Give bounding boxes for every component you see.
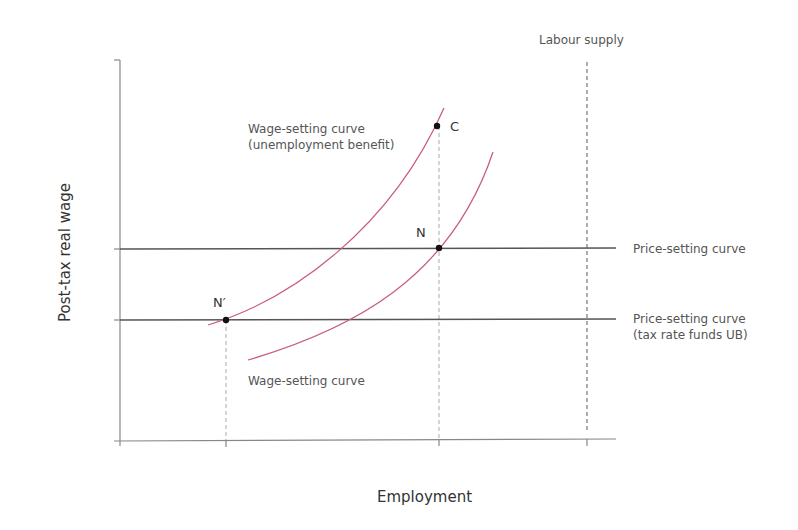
price-setting-curve bbox=[120, 248, 616, 249]
ws-ub-label-line1: Wage-setting curve bbox=[248, 122, 365, 136]
point-n-label: N bbox=[416, 225, 426, 240]
point-c-label: C bbox=[450, 119, 459, 134]
labour-supply-label: Labour supply bbox=[539, 33, 624, 47]
ws-ub-label-line2: (unemployment benefit) bbox=[248, 138, 395, 152]
point-n bbox=[436, 245, 442, 251]
point-nprime bbox=[223, 317, 229, 323]
ps-label: Price-setting curve bbox=[633, 242, 746, 256]
price-setting-curve-ub bbox=[120, 319, 616, 320]
y-axis-title: Post-tax real wage bbox=[56, 183, 74, 322]
point-c bbox=[434, 123, 440, 129]
ps-ub-label-line2: (tax rate funds UB) bbox=[633, 328, 748, 342]
point-nprime-label: N′ bbox=[213, 295, 226, 310]
x-axis-title: Employment bbox=[377, 488, 472, 506]
ps-ub-label-line1: Price-setting curve bbox=[633, 312, 746, 326]
axes bbox=[114, 60, 616, 447]
ws-label: Wage-setting curve bbox=[248, 374, 365, 388]
labour-market-diagram: C N N′ Labour supply Wage-setting curve … bbox=[0, 0, 798, 530]
x-axis bbox=[114, 439, 616, 441]
wage-setting-curve bbox=[248, 152, 493, 360]
